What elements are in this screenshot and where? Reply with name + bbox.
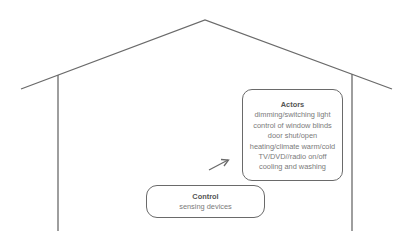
actor-item: dimming/switching light [243,110,342,120]
smart-home-diagram: Actors dimming/switching light control o… [0,0,415,245]
roof-line [21,20,392,89]
actor-item: TV/DVD//radio on/off [243,152,342,162]
actor-item: cooling and washing [243,162,342,172]
control-title: Control [147,192,264,202]
actor-item: control of window blinds [243,121,342,131]
actor-item: door shut/open [243,131,342,141]
actors-box: Actors dimming/switching light control o… [242,89,343,181]
actors-title: Actors [243,100,342,110]
arrow-icon [209,160,229,171]
control-subtitle: sensing devices [147,202,264,212]
actor-item: heating/climate warm/cold [243,142,342,152]
control-box: Control sensing devices [146,185,265,218]
